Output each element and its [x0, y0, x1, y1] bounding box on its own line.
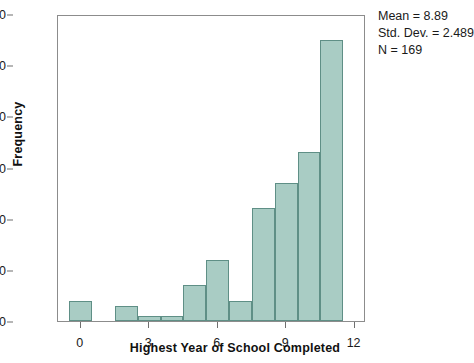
x-axis-title: Highest Year of School Completed — [0, 341, 470, 355]
x-axis-tick-mark — [80, 322, 81, 328]
x-axis-tick-mark — [217, 322, 218, 328]
x-axis-tick-mark — [354, 322, 355, 328]
y-axis-tick-label: 60 — [0, 8, 6, 22]
bars-container — [58, 16, 364, 321]
y-axis-tick-label: 30 — [0, 162, 6, 176]
histogram-bar — [275, 183, 298, 321]
histogram-bar — [115, 306, 138, 321]
y-axis-tick-label: 50 — [0, 59, 6, 73]
x-axis-tick-mark — [285, 322, 286, 328]
y-axis-tick-mark — [7, 66, 13, 67]
statistics-annotation: Mean = 8.89 Std. Dev. = 2.489 N = 169 — [378, 8, 474, 59]
y-axis: 0102030405060 — [0, 0, 57, 363]
y-axis-tick-label: 10 — [0, 264, 6, 278]
histogram-bar — [161, 316, 184, 321]
histogram-bar — [69, 301, 92, 321]
y-axis-tick-mark — [7, 15, 13, 16]
histogram-bar — [229, 301, 252, 321]
histogram-bar — [183, 285, 206, 321]
y-axis-tick-mark — [7, 219, 13, 220]
histogram-bar — [252, 208, 275, 321]
x-axis-tick-mark — [148, 322, 149, 328]
histogram-bar — [298, 152, 321, 321]
histogram-bar — [206, 260, 229, 321]
y-axis-tick-mark — [7, 270, 13, 271]
histogram-bar — [320, 40, 343, 321]
stat-mean: Mean = 8.89 — [378, 8, 474, 25]
stat-std-dev: Std. Dev. = 2.489 — [378, 25, 474, 42]
y-axis-title: Frequency — [11, 74, 25, 194]
y-axis-tick-label: 40 — [0, 110, 6, 124]
histogram-bar — [138, 316, 161, 321]
stat-n: N = 169 — [378, 42, 474, 59]
plot-area — [57, 15, 365, 322]
y-axis-tick-label: 20 — [0, 213, 6, 227]
